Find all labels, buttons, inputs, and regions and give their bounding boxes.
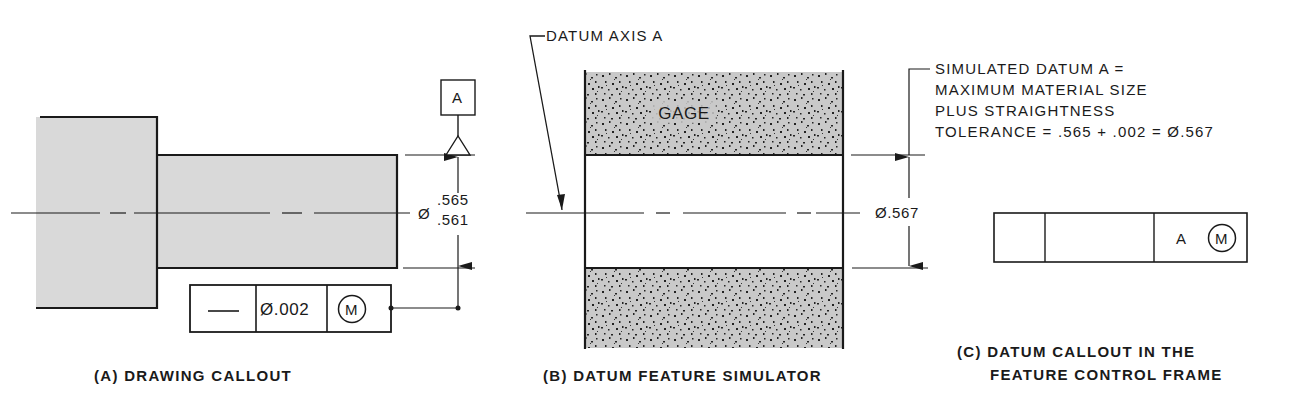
panel-c-datum-callout: A M (C) DATUM CALLOUT IN THE FEATURE CON… [957, 213, 1247, 383]
tolerance-value: Ø.002 [260, 300, 309, 319]
gage-lower [585, 268, 843, 348]
svg-text:PLUS STRAIGHTNESS: PLUS STRAIGHTNESS [935, 102, 1115, 119]
svg-text:MAXIMUM MATERIAL SIZE: MAXIMUM MATERIAL SIZE [935, 81, 1148, 98]
panel-b-datum-feature-simulator: GAGE DATUM AXIS A Ø.567 SIMULATED DATUM … [526, 27, 1214, 384]
svg-text:TOLERANCE = .565 + .002 = Ø.56: TOLERANCE = .565 + .002 = Ø.567 [935, 123, 1214, 140]
gage-diameter: Ø.567 [875, 204, 919, 221]
datum-letter-a: A [452, 89, 463, 106]
simulated-datum-note: SIMULATED DATUM A = MAXIMUM MATERIAL SIZ… [935, 60, 1214, 140]
caption-a: (A) DRAWING CALLOUT [94, 367, 292, 384]
feature-control-frame-a: Ø.002 M [190, 285, 461, 332]
diameter-symbol-a: Ø [418, 205, 430, 222]
datum-feature-symbol-a: A [441, 80, 475, 155]
size-upper-limit: .565 [437, 191, 469, 208]
feature-control-frame-c: A M [994, 213, 1247, 262]
caption-c-line1: (C) DATUM CALLOUT IN THE [957, 343, 1195, 360]
gage-label: GAGE [658, 104, 710, 123]
svg-text:SIMULATED DATUM A =: SIMULATED DATUM A = [935, 60, 1124, 77]
size-lower-limit: .561 [437, 211, 469, 228]
mmc-modifier-letter-c: M [1215, 230, 1228, 247]
caption-c-line2: FEATURE CONTROL FRAME [990, 366, 1223, 383]
gdt-datum-diagram: Ø .565 .561 A Ø.002 M (A) DRAWING CALLOU… [0, 0, 1316, 399]
panel-a-drawing-callout: Ø .565 .561 A Ø.002 M (A) DRAWING CALLOU… [11, 80, 475, 384]
datum-axis-label: DATUM AXIS A [546, 27, 663, 44]
datum-axis-leader [530, 36, 565, 210]
note-leader [909, 69, 930, 155]
mmc-modifier-letter: M [345, 301, 358, 318]
datum-reference-letter: A [1176, 230, 1187, 247]
caption-b: (B) DATUM FEATURE SIMULATOR [543, 367, 822, 384]
